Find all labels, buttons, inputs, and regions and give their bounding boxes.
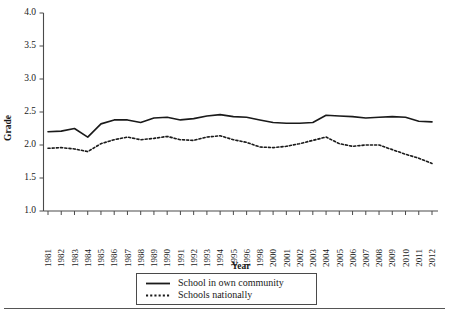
y-axis-tick-marks [40, 13, 44, 211]
y-tick-label: 3.5 [24, 40, 36, 50]
x-tick-label: 2009 [387, 249, 397, 268]
x-tick-label: 2000 [268, 249, 278, 268]
x-tick-label: 2001 [282, 249, 292, 267]
y-axis-title: Grade [3, 115, 13, 141]
x-tick-label: 1994 [215, 249, 225, 268]
x-tick-label: 1986 [109, 249, 119, 268]
y-tick-label: 3.0 [24, 73, 36, 83]
x-tick-label: 1993 [202, 249, 212, 268]
x-tick-label: 2010 [401, 249, 411, 268]
x-tick-label: 1998 [255, 249, 265, 268]
y-tick-label: 1.0 [24, 205, 36, 215]
x-tick-label: 2012 [427, 249, 437, 267]
x-tick-label: 2002 [295, 249, 305, 267]
x-tick-label: 1990 [162, 249, 172, 268]
legend: School in own community Schools national… [137, 274, 317, 305]
y-tick-label: 2.5 [24, 106, 36, 116]
chart-figure: Grade 1.01.52.02.53.03.54.0 198119821983… [0, 0, 449, 316]
series-line-schools-nationally [48, 136, 432, 164]
series-line-school-in-own-community [48, 115, 432, 137]
x-tick-label: 1991 [176, 249, 186, 267]
x-tick-label: 2003 [308, 249, 318, 268]
x-tick-label: 2004 [321, 249, 331, 268]
x-tick-label: 1982 [56, 249, 66, 267]
x-tick-label: 2008 [374, 249, 384, 268]
y-tick-label: 1.5 [24, 172, 36, 182]
legend-label-1: Schools nationally [178, 289, 252, 300]
y-axis-tick-labels: 1.01.52.02.53.03.54.0 [24, 7, 36, 215]
y-axis-title-group: Grade [3, 115, 13, 141]
x-tick-label: 1985 [96, 249, 106, 268]
x-tick-label: 1983 [70, 249, 80, 268]
x-tick-label: 2006 [348, 249, 358, 268]
x-axis-title: Year [232, 261, 252, 271]
legend-label-0: School in own community [178, 277, 284, 288]
x-tick-label: 1992 [189, 249, 199, 267]
x-tick-label: 1988 [136, 249, 146, 268]
y-tick-label: 4.0 [24, 7, 36, 17]
x-tick-label: 1984 [83, 249, 93, 268]
line-chart: Grade 1.01.52.02.53.03.54.0 198119821983… [0, 0, 449, 316]
x-tick-label: 2011 [414, 249, 424, 267]
x-tick-label: 2007 [361, 249, 371, 268]
x-axis-tick-marks [48, 211, 432, 215]
x-tick-label: 1981 [43, 249, 53, 267]
x-tick-label: 1987 [123, 249, 133, 268]
x-tick-label: 2005 [335, 249, 345, 268]
y-tick-label: 2.0 [24, 139, 36, 149]
x-tick-label: 1989 [149, 249, 159, 268]
